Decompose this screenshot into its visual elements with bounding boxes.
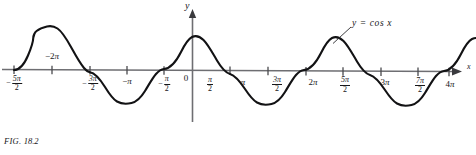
annotation-leader-line (333, 27, 351, 44)
figure-caption-number: 18.2 (24, 136, 39, 146)
tick-label-t-neg2pi: −2π (45, 52, 59, 61)
y-axis-arrow-icon (189, 9, 196, 18)
figure-caption: FIG. 18.2 (4, 136, 39, 146)
tick-label-t-2pi: 2π (308, 78, 317, 87)
curve-equation-label: y = cos x (352, 18, 392, 28)
tick-label-t-negpi: −π (122, 77, 132, 86)
tick-label-t-5pi2: 5π2 (340, 76, 350, 94)
tick-label-t-negpi2: −π2 (158, 75, 170, 93)
tick-label-t-4pi: 4π (445, 80, 454, 89)
tick-label-t-3pi: 3π (380, 78, 389, 87)
tick-label-t-zero: 0 (184, 74, 189, 83)
x-axis-arrow-icon (452, 68, 462, 76)
tick-label-t-neg3pi2: −3π2 (82, 75, 98, 93)
tick-label-t-neg5pi2: −5π2 (6, 75, 22, 93)
tick-label-t-pi: π (241, 78, 246, 87)
y-axis-label: y (185, 0, 189, 11)
cosine-curve-path (14, 26, 476, 105)
figure-caption-prefix: FIG. (4, 136, 22, 146)
cosine-plot (0, 0, 476, 155)
figure-container: y x y = cos x −5π2−2π−3π2−π−π20π2π3π22π5… (0, 0, 476, 155)
x-axis (2, 70, 452, 72)
x-axis-label: x (467, 62, 471, 71)
tick-label-t-7pi2: 7π2 (415, 77, 425, 95)
tick-label-t-3pi2: 3π2 (272, 76, 282, 94)
tick-label-t-pi2: π2 (207, 76, 213, 94)
